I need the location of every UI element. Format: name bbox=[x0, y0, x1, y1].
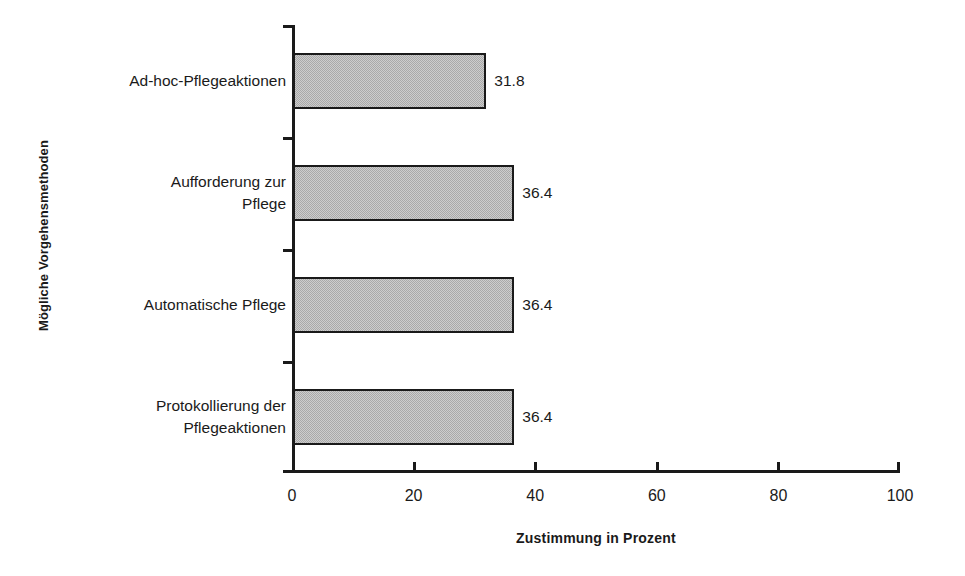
bar-value-label: 36.4 bbox=[522, 184, 552, 202]
y-axis-tick bbox=[283, 361, 293, 364]
x-axis-tick bbox=[897, 462, 900, 473]
plot-area: 31.836.436.436.4 020406080100 bbox=[292, 25, 900, 473]
x-axis-tick-label: 60 bbox=[617, 487, 697, 505]
bar bbox=[293, 165, 514, 221]
x-axis-tick bbox=[534, 462, 537, 473]
bar-value-label: 31.8 bbox=[494, 72, 524, 90]
x-axis-line bbox=[292, 470, 900, 473]
bar-value-label: 36.4 bbox=[522, 408, 552, 426]
x-axis-tick-label: 40 bbox=[495, 487, 575, 505]
x-axis-tick bbox=[777, 462, 780, 473]
y-axis-tick-label: Aufforderung zur Pflege bbox=[40, 171, 286, 215]
x-axis-tick-label: 0 bbox=[252, 487, 332, 505]
x-axis-tick-label: 100 bbox=[860, 487, 940, 505]
y-axis-tick bbox=[283, 137, 293, 140]
x-axis-title: Zustimmung in Prozent bbox=[292, 530, 900, 546]
y-axis-tick-label: Ad-hoc-Pflegeaktionen bbox=[40, 70, 286, 92]
bar bbox=[293, 277, 514, 333]
y-axis-tick bbox=[283, 25, 293, 28]
y-axis-category-labels: Ad-hoc-Pflegeaktionen Aufforderung zur P… bbox=[40, 25, 286, 473]
x-axis-tick bbox=[292, 462, 295, 473]
bar bbox=[293, 389, 514, 445]
y-axis-tick-label: Protokollierung der Pflegeaktionen bbox=[40, 395, 286, 439]
x-axis-tick bbox=[413, 462, 416, 473]
x-axis-tick-label: 20 bbox=[374, 487, 454, 505]
bar-value-label: 36.4 bbox=[522, 296, 552, 314]
y-axis-tick-label: Automatische Pflege bbox=[40, 294, 286, 316]
y-axis-tick bbox=[283, 249, 293, 252]
bar bbox=[293, 53, 486, 109]
x-axis-tick-label: 80 bbox=[738, 487, 818, 505]
x-axis-tick bbox=[656, 462, 659, 473]
bar-chart: Mögliche Vorgehensmethoden Ad-hoc-Pflege… bbox=[0, 0, 965, 576]
